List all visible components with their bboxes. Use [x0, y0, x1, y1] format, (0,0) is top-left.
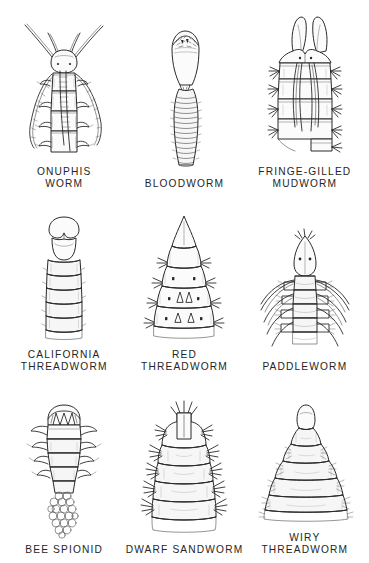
- specimen-cell-wiry-threadworm: WIRY THREADWORM: [245, 374, 365, 557]
- specimen-cell-bee-spionid: BEE SPIONID: [4, 374, 124, 557]
- specimen-cell-paddleworm: PADDLEWORM: [245, 191, 365, 374]
- bloodworm-illustration: [124, 8, 244, 173]
- specimen-label-bee-spionid: BEE SPIONID: [25, 539, 103, 557]
- specimen-cell-bloodworm: BLOODWORM: [124, 8, 244, 191]
- specimen-cell-dwarf-sandworm: DWARF SANDWORM: [124, 374, 244, 557]
- dwarf-sandworm-illustration: [124, 374, 244, 539]
- specimen-cell-california-threadworm: CALIFORNIA THREADWORM: [4, 191, 124, 374]
- onuphis-worm-illustration: [4, 8, 124, 161]
- bee-spionid-illustration: [4, 374, 124, 539]
- specimen-label-wiry-threadworm: WIRY THREADWORM: [261, 527, 348, 557]
- specimen-label-california-threadworm: CALIFORNIA THREADWORM: [21, 344, 108, 374]
- worm-identification-plate: ONUPHIS WORM: [0, 0, 369, 563]
- fringe-gilled-mudworm-illustration: [245, 8, 365, 161]
- specimen-cell-red-threadworm: RED THREADWORM: [124, 191, 244, 374]
- specimen-cell-onuphis-worm: ONUPHIS WORM: [4, 8, 124, 191]
- specimen-label-fringe-gilled-mudworm: FRINGE-GILLED MUDWORM: [258, 161, 351, 191]
- specimen-label-paddleworm: PADDLEWORM: [262, 356, 347, 374]
- specimen-cell-fringe-gilled-mudworm: FRINGE-GILLED MUDWORM: [245, 8, 365, 191]
- paddleworm-illustration: [245, 191, 365, 356]
- specimen-label-onuphis-worm: ONUPHIS WORM: [37, 161, 91, 191]
- specimen-label-bloodworm: BLOODWORM: [145, 173, 224, 191]
- red-threadworm-illustration: [124, 191, 244, 344]
- specimen-label-dwarf-sandworm: DWARF SANDWORM: [126, 539, 244, 557]
- california-threadworm-illustration: [4, 191, 124, 344]
- specimen-label-red-threadworm: RED THREADWORM: [141, 344, 228, 374]
- wiry-threadworm-illustration: [245, 374, 365, 527]
